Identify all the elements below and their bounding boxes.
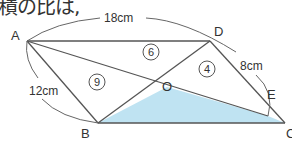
geometry-figure: 18cm 12cm 8cm A D B C E O 6 9 4 — [0, 0, 292, 141]
ratio-label-aod: 6 — [148, 46, 154, 58]
dimension-arc-ab-bottom — [42, 99, 98, 123]
dimension-label-de: 8cm — [240, 59, 263, 73]
vertex-label-c: C — [286, 126, 292, 141]
ratio-label-abo: 9 — [94, 76, 100, 88]
vertex-label-d: D — [214, 24, 223, 39]
ratio-label-doe: 4 — [204, 63, 210, 75]
dimension-label-ab: 12cm — [29, 84, 58, 98]
vertex-label-a: A — [11, 28, 20, 43]
dimension-arc-ad — [27, 18, 100, 41]
vertex-label-o: O — [162, 79, 172, 94]
vertex-label-b: B — [81, 126, 90, 141]
dimension-label-ad: 18cm — [104, 11, 133, 25]
segment-ab — [27, 41, 98, 123]
vertex-label-e: E — [267, 87, 276, 102]
